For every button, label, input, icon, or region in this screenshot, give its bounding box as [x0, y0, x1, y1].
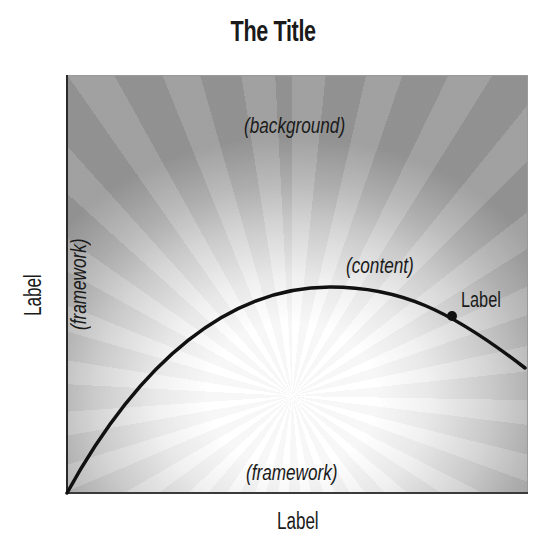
title-text: The Title — [231, 14, 316, 48]
background-label-text: (background) — [244, 113, 345, 139]
point-label: Label — [461, 287, 515, 313]
framework-label-left: (framework) — [66, 213, 92, 330]
diagram-title: The Title — [0, 14, 547, 48]
framework-bottom-text: (framework) — [246, 460, 338, 486]
background-label: (background) — [244, 113, 374, 139]
y-axis-label-text: Label — [20, 274, 47, 316]
y-axis-label: Label — [20, 260, 47, 316]
content-label: (content) — [346, 253, 433, 279]
x-axis-label-text: Label — [277, 508, 319, 535]
point-label-text: Label — [461, 287, 501, 313]
x-axis-label: Label — [277, 508, 333, 535]
content-label-text: (content) — [346, 253, 414, 279]
framework-left-text: (framework) — [66, 238, 92, 330]
x-axis-line — [66, 492, 528, 494]
framework-label-bottom: (framework) — [246, 460, 363, 486]
